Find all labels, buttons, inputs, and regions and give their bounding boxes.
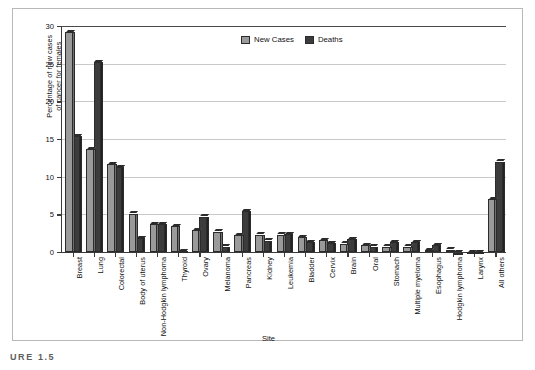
bar-side: [418, 242, 420, 252]
bars-layer: [62, 26, 506, 252]
bar-group: [421, 26, 442, 252]
bar-new-cases: [361, 243, 368, 252]
bar-side: [503, 162, 505, 253]
x-tick-label: Melanoma: [223, 257, 232, 291]
bar-group: [443, 26, 464, 252]
bar-side: [411, 247, 413, 253]
bar-face: [453, 253, 460, 255]
bar-new-cases: [65, 30, 72, 252]
y-tick-label: 5: [34, 210, 54, 219]
bar-side: [101, 62, 103, 252]
bar-face: [213, 232, 220, 252]
bar-side: [432, 250, 434, 252]
bar-side: [439, 245, 441, 252]
bar-group: [358, 26, 379, 252]
bar-group: [125, 26, 146, 252]
bar-face: [340, 244, 347, 252]
bar-new-cases: [446, 247, 453, 252]
bar-group: [62, 26, 83, 252]
bar-side: [242, 235, 244, 252]
bar-side: [291, 234, 293, 252]
bar-side: [270, 241, 272, 253]
bar-side: [80, 136, 82, 252]
bar-new-cases: [319, 238, 326, 252]
bar-side: [369, 245, 371, 252]
bar-group: [231, 26, 252, 252]
x-tick-label: Esophagus: [434, 257, 443, 294]
bar-face: [403, 247, 410, 252]
bar-side: [199, 230, 201, 252]
bar-side: [313, 242, 315, 252]
bar-side: [186, 251, 188, 253]
bar-group: [252, 26, 273, 252]
bar-group: [83, 26, 104, 252]
y-tick-label: 25: [34, 59, 54, 68]
bar-face: [255, 235, 262, 252]
bar-new-cases: [150, 222, 157, 252]
y-tick-label: 20: [34, 97, 54, 106]
bar-group: [273, 26, 294, 252]
x-tick-label: Lung: [96, 257, 105, 273]
bar-group: [485, 26, 506, 252]
bar-side: [305, 237, 307, 252]
bar-face: [107, 164, 114, 252]
bar-face: [488, 199, 495, 252]
bar-new-cases: [255, 232, 262, 252]
bar-group: [379, 26, 400, 252]
bar-face: [129, 214, 136, 252]
bar-new-cases: [382, 244, 389, 252]
x-tick-label: Pancreas: [244, 257, 253, 288]
bar-side: [376, 247, 378, 253]
bar-side: [136, 214, 138, 253]
bar-face: [446, 250, 453, 252]
x-tick-label: Multiple myeloma: [413, 257, 422, 315]
bar-face: [298, 237, 305, 252]
bar-side: [178, 226, 180, 252]
bar-new-cases: [213, 229, 220, 252]
bar-side: [143, 238, 145, 252]
bar-side: [207, 217, 209, 253]
x-axis-title: Site: [13, 334, 524, 343]
x-tick-label: Ovary: [201, 257, 210, 277]
x-tick-label: Brain: [349, 257, 358, 274]
bar-side: [165, 224, 167, 252]
bar-group: [104, 26, 125, 252]
bar-side: [284, 235, 286, 253]
bar-side: [453, 250, 455, 253]
bar-new-cases: [403, 244, 410, 252]
bar-group: [189, 26, 210, 252]
bar-side: [228, 247, 230, 253]
bar-face: [361, 245, 368, 252]
x-tick-label: Cervix: [328, 257, 337, 278]
bar-new-cases: [192, 228, 199, 252]
bar-side: [94, 149, 96, 252]
bar-side: [73, 32, 75, 252]
x-tick-label: Oral: [371, 257, 380, 271]
bar-side: [495, 199, 497, 252]
x-tick-label: Hodgkin lymphoma: [455, 257, 464, 320]
x-tick-label: Body of uterus: [138, 257, 147, 305]
bar-side: [157, 224, 159, 252]
figure-frame: Percentage of new cases of cancer for fe…: [12, 8, 523, 341]
bar-face: [65, 32, 72, 252]
bar-face: [86, 149, 93, 252]
bar-face: [234, 235, 241, 252]
bar-side: [397, 242, 399, 252]
bar-new-cases: [425, 248, 432, 252]
bar-new-cases: [340, 241, 347, 252]
x-tick-label: Kidney: [265, 257, 274, 280]
bar-face: [192, 230, 199, 252]
x-tick-label: Breast: [75, 257, 84, 278]
bar-face: [319, 240, 326, 252]
bar-group: [316, 26, 337, 252]
y-tick-label: 15: [34, 135, 54, 144]
bar-new-cases: [298, 235, 305, 252]
bar-side: [249, 211, 251, 252]
y-tick-label: 0: [34, 248, 54, 257]
bar-group: [210, 26, 231, 252]
bar-side: [115, 164, 117, 252]
bar-face: [171, 226, 178, 252]
bar-side: [263, 235, 265, 253]
y-tick-label: 10: [34, 172, 54, 181]
x-tick-label: Larynx: [476, 257, 485, 279]
